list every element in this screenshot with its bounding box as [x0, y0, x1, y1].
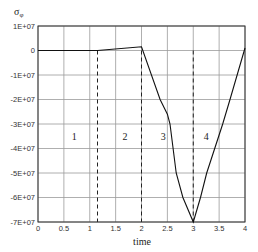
x-tick-label: 3.5 — [214, 224, 224, 233]
phase-label: 4 — [204, 131, 209, 142]
phase-labels: 1234 — [72, 131, 209, 142]
phase-label: 2 — [122, 131, 127, 142]
x-tick-label: 3 — [191, 224, 195, 233]
x-axis-label: time — [133, 236, 151, 247]
x-tick-label: 0.5 — [59, 224, 69, 233]
y-tick-label: -7E+07 — [11, 218, 35, 227]
x-tick-label: 2.5 — [162, 224, 172, 233]
y-tick-label: -1E+07 — [11, 71, 35, 80]
y-tick-label: -5E+07 — [11, 169, 35, 178]
x-tick-label: 0 — [36, 224, 40, 233]
y-tick-label: -2E+07 — [11, 95, 35, 104]
x-tick-label: 4 — [243, 224, 247, 233]
y-axis-label: σφ — [14, 6, 23, 19]
phase-label: 1 — [72, 131, 77, 142]
x-tick-label: 1.5 — [110, 224, 120, 233]
y-tick-label: -3E+07 — [11, 120, 35, 129]
x-tick-label: 1 — [88, 224, 92, 233]
y-tick-label: 1E+07 — [13, 22, 35, 31]
y-tick-label: -4E+07 — [11, 144, 35, 153]
stress-time-chart: 1E+070-1E+07-2E+07-3E+07-4E+07-5E+07-6E+… — [0, 0, 258, 252]
y-tick-label: 0 — [31, 46, 35, 55]
phase-label: 3 — [161, 131, 166, 142]
x-tick-label: 2 — [139, 224, 143, 233]
y-axis-ticks: 1E+070-1E+07-2E+07-3E+07-4E+07-5E+07-6E+… — [11, 22, 35, 227]
y-tick-label: -6E+07 — [11, 193, 35, 202]
x-axis-ticks: 00.511.522.533.54 — [36, 224, 247, 233]
phase-boundary-lines — [98, 51, 194, 223]
